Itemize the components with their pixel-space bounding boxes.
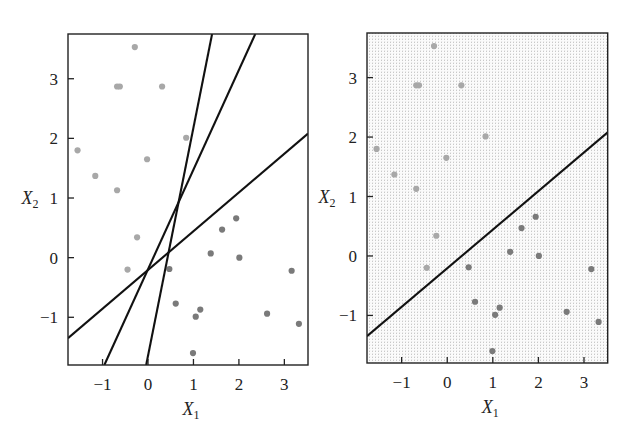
y-axis-title: X2 xyxy=(318,187,336,210)
light-point xyxy=(433,233,439,239)
dark-point xyxy=(472,299,478,305)
x-tick-label: 3 xyxy=(580,373,589,392)
dark-point xyxy=(507,249,513,255)
light-point xyxy=(443,155,449,161)
light-point xyxy=(482,133,488,139)
x-tick-label: 2 xyxy=(534,373,543,392)
y-tick-label: 1 xyxy=(349,188,358,207)
x-tick-label: 0 xyxy=(443,373,452,392)
y-tick-label: 3 xyxy=(349,69,358,88)
dark-point xyxy=(466,264,472,270)
dark-point xyxy=(595,319,601,325)
dark-point xyxy=(533,214,539,220)
light-point xyxy=(431,43,437,49)
dark-point xyxy=(489,348,495,354)
light-point xyxy=(416,82,422,88)
light-point xyxy=(458,82,464,88)
x-tick-label: −1 xyxy=(393,373,411,392)
shaded-region xyxy=(367,33,608,363)
y-tick-label: 2 xyxy=(349,128,358,147)
dark-point xyxy=(588,266,594,272)
light-point xyxy=(373,146,379,152)
x-tick-label: 1 xyxy=(489,373,498,392)
light-point xyxy=(413,186,419,192)
dark-point xyxy=(497,305,503,311)
x-axis-title: X1 xyxy=(481,397,499,420)
dark-point xyxy=(536,253,542,259)
dark-point xyxy=(518,225,524,231)
y-tick-label: −1 xyxy=(339,306,357,325)
right-scatter-panel: −10123−10123X1X2 xyxy=(0,0,314,444)
y-tick-label: 0 xyxy=(349,247,358,266)
dark-point xyxy=(492,312,498,318)
right-chart-svg: −10123−10123X1X2 xyxy=(0,0,629,444)
light-point xyxy=(391,171,397,177)
light-point xyxy=(424,265,430,271)
dark-point xyxy=(564,309,570,315)
